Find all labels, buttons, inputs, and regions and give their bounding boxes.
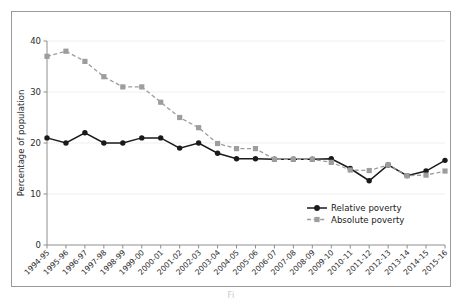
y-tick-label: 40 [30,36,41,46]
data-point [329,160,334,165]
data-point [82,59,87,64]
data-point [139,84,144,89]
data-point [158,135,163,140]
legend-marker [314,217,319,222]
chart-area: 010203040Percentage of population1994-95… [0,0,462,304]
data-point [423,173,428,178]
data-point [367,168,372,173]
data-point [158,100,163,105]
data-point [44,135,49,140]
figure-caption: Fi [0,291,462,300]
data-point [215,141,220,146]
y-tick-label: 30 [30,87,41,97]
y-tick-label: 20 [30,138,41,148]
figure-root: 010203040Percentage of population1994-95… [0,0,462,304]
data-point [177,145,182,150]
data-point [196,140,201,145]
legend-marker [314,205,320,211]
data-point [82,130,87,135]
data-point [442,158,447,163]
data-point [120,140,125,145]
data-point [196,125,201,130]
series-line [47,133,445,181]
data-point [44,54,49,59]
poverty-line-chart: 010203040Percentage of population1994-95… [0,0,462,304]
y-axis-label: Percentage of population [16,90,26,197]
data-point [253,146,258,151]
data-point [310,157,315,162]
data-point [101,74,106,79]
data-point [63,140,68,145]
data-point [177,115,182,120]
data-point [63,49,68,54]
data-point [234,146,239,151]
y-tick-label: 0 [36,240,41,250]
legend-label: Absolute poverty [331,215,404,225]
data-point [291,157,296,162]
data-point [120,84,125,89]
y-tick-label: 10 [30,189,41,199]
series-line [47,51,445,175]
data-point [253,156,258,161]
data-point [366,178,371,183]
data-point [215,151,220,156]
data-point [272,157,277,162]
legend-label: Relative poverty [331,203,401,213]
data-point [405,173,410,178]
data-point [234,156,239,161]
data-point [442,168,447,173]
data-point [386,162,391,167]
data-point [348,167,353,172]
data-point [101,140,106,145]
data-point [139,135,144,140]
